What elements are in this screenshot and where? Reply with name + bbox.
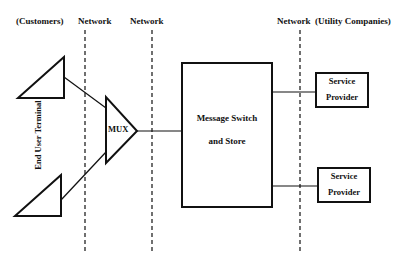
label-and-store: and Store [182, 136, 272, 146]
label-end-user-terminal: End User Terminal [33, 100, 43, 169]
label-service-provider-2-line2: Provider [318, 187, 370, 197]
label-message-switch: Message Switch [182, 113, 272, 123]
diagram-canvas [0, 0, 397, 266]
label-service-provider-1-line1: Service [316, 76, 368, 86]
label-network-1: Network [78, 16, 112, 26]
label-service-provider-2-line1: Service [318, 171, 370, 181]
terminal-top [18, 57, 64, 98]
label-customers: (Customers) [16, 16, 64, 26]
label-network-2: Network [130, 16, 164, 26]
label-mux: MUX [108, 124, 128, 134]
link-terminal-bottom-mux [61, 152, 106, 200]
label-network-3: Network [277, 16, 311, 26]
label-utility-companies: (Utility Companies) [315, 16, 391, 26]
terminal-bottom [15, 175, 61, 216]
label-service-provider-1-line2: Provider [316, 92, 368, 102]
message-switch-box [182, 63, 272, 207]
